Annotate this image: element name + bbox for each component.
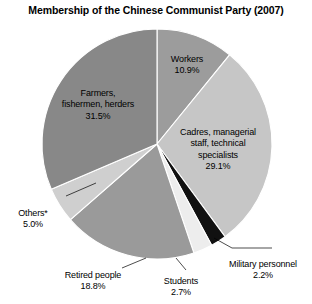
slice-label-retired-name: Retired people (65, 270, 121, 280)
slice-label-military-pct: 2.2% (216, 270, 310, 281)
slice-label-cadres-pct: 29.1% (168, 161, 268, 172)
pie-chart-figure: Membership of the Chinese Communist Part… (0, 0, 312, 304)
slice-label-retired: Retired people 18.8% (42, 259, 144, 304)
slice-label-military-name: Military personnel (229, 259, 297, 269)
slice-label-students: Students 2.7% (150, 265, 212, 304)
slice-label-workers-pct: 10.9% (156, 65, 218, 76)
slice-label-cadres-name: Cadres, managerial staff, technical spec… (180, 127, 256, 159)
slice-label-others-name: Others* (18, 208, 47, 218)
slice-label-cadres: Cadres, managerial staff, technical spec… (168, 116, 268, 183)
slice-label-farmers: Farmers, fishermen, herders 31.5% (38, 77, 158, 133)
slice-label-others-pct: 5.0% (2, 219, 64, 230)
slice-label-retired-pct: 18.8% (42, 281, 144, 292)
slice-label-farmers-pct: 31.5% (38, 111, 158, 122)
slice-label-workers: Workers 10.9% (156, 43, 218, 88)
slice-label-workers-name: Workers (171, 54, 203, 64)
slice-label-students-pct: 2.7% (150, 287, 212, 298)
slice-label-others: Others* 5.0% (2, 197, 64, 242)
slice-label-military: Military personnel 2.2% (216, 248, 310, 293)
slice-label-farmers-name: Farmers, fishermen, herders (62, 88, 134, 109)
leader-line-military (214, 238, 272, 248)
slice-label-students-name: Students (164, 276, 198, 286)
